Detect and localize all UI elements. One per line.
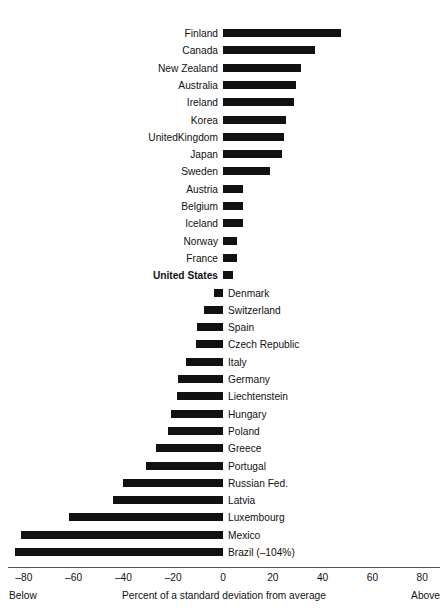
x-tick-label: –60	[54, 572, 94, 584]
bar-category-label: Spain	[228, 320, 254, 335]
bar	[15, 548, 223, 556]
bar-category-label: Iceland	[0, 216, 218, 231]
bar	[123, 479, 223, 487]
bar	[156, 444, 223, 452]
bar-category-label: New Zealand	[0, 61, 218, 76]
bar-category-label: Brazil (–104%)	[228, 545, 295, 560]
bar-category-label: Greece	[228, 441, 261, 456]
bar	[171, 410, 223, 418]
x-tick-label: 0	[203, 572, 243, 584]
bar-category-label: Latvia	[228, 493, 255, 508]
bar-category-label: Korea	[0, 113, 218, 128]
bar-row: Brazil (–104%)	[0, 543, 448, 563]
x-tick-label: 80	[402, 572, 442, 584]
x-tick-label: –40	[103, 572, 143, 584]
bar-category-label: Czech Republic	[228, 337, 299, 352]
plot-area: FinlandCanadaNew ZealandAustraliaIreland…	[0, 0, 448, 560]
bar-category-label: Switzerland	[228, 303, 281, 318]
bar	[223, 116, 286, 124]
bar-category-label: Ireland	[0, 95, 218, 110]
bar	[223, 29, 341, 37]
bar	[197, 323, 223, 331]
bar	[223, 64, 301, 72]
bar	[223, 46, 315, 54]
bar-category-label: Canada	[0, 43, 218, 58]
bar-category-label: UnitedKingdom	[0, 130, 218, 145]
x-tick-label: –80	[4, 572, 44, 584]
bar	[21, 531, 223, 539]
x-tick-label: –20	[153, 572, 193, 584]
bar-category-label: Sweden	[0, 164, 218, 179]
bar	[223, 202, 243, 210]
bar-category-label: Mexico	[228, 528, 260, 543]
bar-category-label: United States	[0, 268, 218, 283]
bar-category-label: Liechtenstein	[228, 389, 288, 404]
axis-caption-above: Above	[411, 589, 440, 602]
bar-category-label: Finland	[0, 26, 218, 41]
bar-category-label: Poland	[228, 424, 260, 439]
bar-category-label: Hungary	[228, 407, 267, 422]
bar-category-label: Australia	[0, 78, 218, 93]
bar	[168, 427, 223, 435]
bar-category-label: Portugal	[228, 459, 266, 474]
bar	[223, 254, 237, 262]
bar	[69, 513, 223, 521]
bar-category-label: Luxembourg	[228, 510, 285, 525]
bar	[223, 98, 294, 106]
bar-category-label: Japan	[0, 147, 218, 162]
bar	[223, 150, 282, 158]
bar-category-label: Belgium	[0, 199, 218, 214]
bar	[186, 358, 223, 366]
bar-category-label: Austria	[0, 182, 218, 197]
bar	[146, 462, 223, 470]
bar	[196, 340, 223, 348]
x-axis-line	[8, 567, 440, 568]
bar-category-label: Germany	[228, 372, 270, 387]
x-tick-label: 40	[303, 572, 343, 584]
bar-category-label: Russian Fed.	[228, 476, 288, 491]
bar	[178, 375, 223, 383]
bar-category-label: Italy	[228, 355, 247, 370]
bar-category-label: France	[0, 251, 218, 266]
bar	[223, 185, 243, 193]
bar	[223, 237, 237, 245]
bar	[177, 392, 223, 400]
bar-chart: FinlandCanadaNew ZealandAustraliaIreland…	[0, 0, 448, 611]
x-tick-label: 60	[352, 572, 392, 584]
x-axis-label: Percent of a standard deviation from ave…	[0, 589, 448, 602]
bar	[223, 219, 243, 227]
bar-category-label: Norway	[0, 234, 218, 249]
bar	[223, 133, 284, 141]
bar	[223, 271, 233, 279]
x-tick-label: 20	[253, 572, 293, 584]
bar	[223, 167, 270, 175]
bar	[214, 289, 223, 297]
bar	[223, 81, 296, 89]
bar-category-label: Denmark	[228, 286, 269, 301]
bar	[113, 496, 223, 504]
bar	[204, 306, 223, 314]
